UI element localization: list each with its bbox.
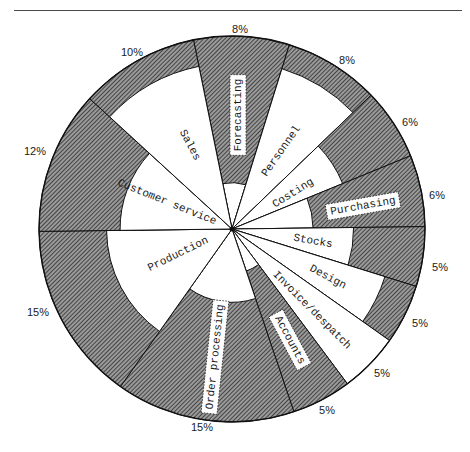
percent-label-costing: 6% [402, 116, 418, 128]
percent-label-accounts: 5% [319, 404, 335, 416]
percent-label-personnel: 8% [339, 54, 355, 66]
pie-center-dot [230, 227, 235, 232]
percent-label-design: 5% [412, 317, 428, 329]
segment-label-text: Forecasting [232, 79, 244, 152]
percent-label-invoice-despatch: 5% [374, 367, 390, 379]
percent-label-purchasing: 6% [429, 189, 445, 201]
percent-label-production: 15% [27, 306, 49, 318]
percent-label-forecasting: 8% [232, 23, 248, 35]
percent-label-order-processing: 15% [191, 421, 213, 433]
percent-label-customer-service: 12% [24, 145, 46, 157]
percent-label-sales: 10% [121, 46, 143, 58]
segment-label-forecasting: Forecasting [230, 75, 246, 156]
department-share-pie-chart: Forecasting8%Personnel8%Costing6%Purchas… [0, 0, 470, 452]
percent-label-stocks: 5% [432, 261, 448, 273]
